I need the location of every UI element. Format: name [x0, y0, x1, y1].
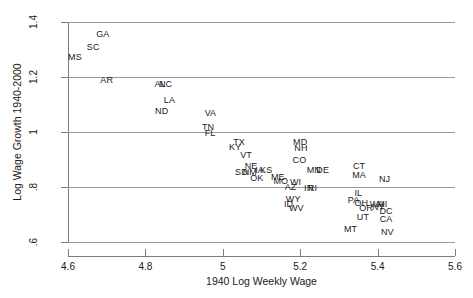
x-tick-label-5.6: 5.6	[435, 261, 473, 272]
y-tick-1	[61, 132, 68, 133]
x-tick-4.8	[145, 249, 146, 256]
data-point-mt: MT	[344, 224, 357, 233]
y-tick-.6	[61, 242, 68, 243]
gridline-y-1.2	[68, 77, 455, 78]
data-point-ut: UT	[357, 213, 369, 222]
x-axis-spine	[68, 256, 455, 257]
x-tick-label-5.2: 5.2	[280, 261, 320, 272]
data-point-ga: GA	[96, 30, 109, 39]
x-tick-label-4.8: 4.8	[125, 261, 165, 272]
data-point-nc: NC	[159, 79, 172, 88]
data-point-nd: ND	[155, 107, 168, 116]
y-tick-.8	[61, 187, 68, 188]
data-point-nh: NH	[294, 143, 307, 152]
x-tick-5.4	[378, 249, 379, 256]
data-point-wv: WV	[289, 204, 304, 213]
data-point-nj: NJ	[379, 174, 390, 183]
x-tick-label-4.6: 4.6	[48, 261, 88, 272]
scatter-plot-figure: 4.64.855.25.45.6.6.811.21.4 GASCMSARALNC…	[0, 0, 473, 298]
data-point-de: DE	[316, 165, 329, 174]
x-tick-5.6	[455, 249, 456, 256]
y-tick-label-1: 1	[28, 112, 39, 152]
x-tick-5.2	[300, 249, 301, 256]
gridline-y-1.4	[68, 22, 455, 23]
data-point-ca: CA	[380, 215, 393, 224]
y-tick-label-.6: .6	[28, 222, 39, 262]
data-point-vt: VT	[240, 150, 252, 159]
data-point-sc: SC	[87, 42, 100, 51]
data-point-ri: RI	[308, 183, 317, 192]
data-point-ma: MA	[352, 171, 366, 180]
y-tick-label-1.4: 1.4	[28, 2, 39, 42]
x-axis-label: 1940 Log Weekly Wage	[68, 275, 455, 287]
data-point-va: VA	[205, 109, 217, 118]
x-tick-label-5.4: 5.4	[358, 261, 398, 272]
data-point-ms: MS	[68, 53, 82, 62]
x-tick-4.6	[68, 249, 69, 256]
y-axis-label: Log Wage Growth 1940-2000	[10, 22, 24, 242]
y-tick-label-1.2: 1.2	[28, 57, 39, 97]
data-point-az: AZ	[285, 183, 297, 192]
data-point-ok: OK	[250, 174, 263, 183]
data-point-ct: CT	[353, 161, 365, 170]
data-point-nv: NV	[381, 227, 394, 236]
gridline-y-1	[68, 132, 455, 133]
data-point-la: LA	[164, 95, 175, 104]
y-tick-1.4	[61, 22, 68, 23]
data-point-fl: FL	[205, 129, 216, 138]
y-tick-label-.8: .8	[28, 167, 39, 207]
x-tick-label-5: 5	[203, 261, 243, 272]
data-point-ar: AR	[100, 76, 113, 85]
y-tick-1.2	[61, 77, 68, 78]
gridline-y-.6	[68, 242, 455, 243]
data-point-co: CO	[293, 156, 307, 165]
gridline-y-.8	[68, 187, 455, 188]
x-tick-5	[223, 249, 224, 256]
